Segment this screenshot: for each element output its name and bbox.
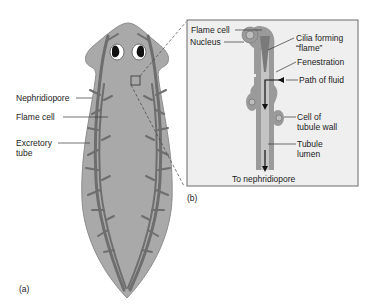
label-flame-cell-b: Flame cell: [191, 25, 230, 35]
label-excretory-tube-line1: Excretory: [16, 138, 52, 148]
label-flame-cell-a: Flame cell: [16, 112, 55, 122]
label-excretory-tube-line2: tube: [16, 148, 33, 158]
label-cilia-line1: Cilia forming: [296, 33, 343, 43]
label-nucleus: Nucleus: [190, 37, 221, 47]
label-cell-wall-line1: Cell of: [297, 112, 321, 122]
label-path-of-fluid: Path of fluid: [299, 75, 344, 85]
label-tubule-line1: Tubule: [297, 139, 323, 149]
label-nephridiopore: Nephridiopore: [16, 93, 69, 103]
label-cilia-line2: “flame”: [296, 43, 322, 53]
label-cell-wall-line2: tubule wall: [297, 122, 337, 132]
panel-a-label: (a): [19, 284, 29, 294]
label-fenestration: Fenestration: [297, 57, 344, 67]
label-tubule-line2: lumen: [297, 149, 320, 159]
panel-b-label: (b): [187, 193, 197, 203]
label-to-nephridiopore: To nephridiopore: [232, 174, 295, 184]
